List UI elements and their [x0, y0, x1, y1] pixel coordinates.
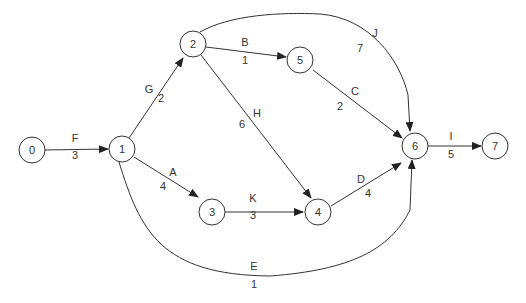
node-1: 1: [109, 136, 135, 162]
edge-label-G-activity: G: [145, 83, 154, 95]
edge-C: [313, 70, 402, 138]
edge-label-G-duration: 2: [158, 92, 164, 104]
edge-H: [201, 55, 311, 198]
edge-label-C-duration: 2: [337, 100, 343, 112]
edge-label-D-activity: D: [357, 173, 365, 185]
edge-label-A-activity: A: [169, 166, 177, 178]
edge-label-E-duration: 1: [251, 278, 257, 290]
edge-label-I-activity: I: [449, 130, 452, 142]
edge-label-H-activity: H: [253, 107, 261, 119]
node-6: 6: [402, 133, 428, 159]
svg-text:6: 6: [412, 140, 418, 152]
edge-label-I-duration: 5: [448, 148, 454, 160]
svg-text:7: 7: [492, 140, 498, 152]
node-2: 2: [180, 31, 206, 57]
edge-label-B-duration: 1: [242, 54, 248, 66]
svg-text:5: 5: [297, 54, 303, 66]
edge-G: [129, 58, 183, 138]
edge-label-H-duration: 6: [239, 118, 245, 130]
edge-label-C-activity: C: [351, 85, 359, 97]
edge-label-J-duration: 7: [357, 42, 363, 54]
node-3: 3: [199, 199, 225, 225]
node-4: 4: [305, 199, 331, 225]
svg-text:0: 0: [29, 144, 35, 156]
edge-label-K-activity: K: [249, 192, 257, 204]
svg-text:1: 1: [119, 143, 125, 155]
edge-label-B-activity: B: [241, 36, 248, 48]
edge-D: [331, 163, 401, 206]
edge-label-E-activity: E: [250, 260, 257, 272]
network-diagram: F 3 G 2 A 4 E 1 B 1 H 6 J 7 C 2 K 3 D 4 …: [0, 0, 526, 303]
edge-E: [119, 160, 412, 276]
svg-text:3: 3: [209, 206, 215, 218]
node-7: 7: [482, 133, 508, 159]
node-0: 0: [19, 137, 45, 163]
edge-label-A-duration: 4: [160, 180, 166, 192]
node-5: 5: [287, 47, 313, 73]
edge-label-F-activity: F: [72, 132, 79, 144]
edge-label-D-duration: 4: [365, 187, 371, 199]
svg-text:4: 4: [315, 206, 321, 218]
svg-text:2: 2: [190, 38, 196, 50]
edge-label-K-duration: 3: [250, 209, 256, 221]
edge-label-J-activity: J: [372, 27, 378, 39]
edge-label-F-duration: 3: [72, 149, 78, 161]
